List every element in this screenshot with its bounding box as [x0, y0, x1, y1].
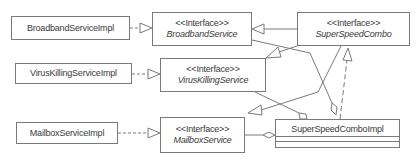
- operations-compartment: [276, 141, 399, 147]
- stereotype-label: <<Interface>>: [327, 18, 380, 29]
- interface-name: SuperSpeedCombo: [315, 29, 391, 40]
- generalization-combo-mailbox: [266, 46, 297, 58]
- realization-virus: [132, 69, 160, 79]
- generalization-combo-broadband: [252, 24, 297, 34]
- class-name: SuperSpeedComboImpl: [291, 120, 383, 136]
- realization-combo: [340, 48, 352, 119]
- stereotype-label: <<Interface>>: [175, 18, 228, 29]
- stereotype-label: <<Interface>>: [186, 64, 239, 75]
- interface-broadband-service[interactable]: <<Interface>> BroadbandService: [152, 12, 252, 46]
- class-virus-killing-service-impl[interactable]: VirusKillingServiceImpl: [15, 63, 132, 84]
- class-name: MailboxServiceImpl: [30, 128, 104, 139]
- interface-mailbox-service[interactable]: <<Interface>> MailboxService: [160, 117, 245, 153]
- interface-virus-killing-service[interactable]: <<Interface>> VirusKillingService: [160, 58, 266, 92]
- aggregation-combo-mailbox: [245, 132, 275, 138]
- class-mailbox-service-impl[interactable]: MailboxServiceImpl: [16, 122, 118, 144]
- realization-mailbox: [118, 128, 160, 138]
- interface-super-speed-combo[interactable]: <<Interface>> SuperSpeedCombo: [297, 12, 410, 46]
- stereotype-label: <<Interface>>: [176, 124, 229, 135]
- interface-name: BroadbandService: [167, 29, 238, 40]
- class-name: BroadbandServiceImpl: [27, 23, 114, 34]
- class-super-speed-combo-impl[interactable]: SuperSpeedComboImpl: [275, 119, 400, 148]
- aggregation-combo-virus: [255, 92, 307, 119]
- interface-name: MailboxService: [173, 135, 231, 146]
- class-broadband-service-impl[interactable]: BroadbandServiceImpl: [11, 16, 130, 40]
- interface-name: VirusKillingService: [178, 75, 249, 86]
- class-name: VirusKillingServiceImpl: [30, 68, 117, 79]
- uml-class-diagram: BroadbandServiceImpl VirusKillingService…: [0, 0, 417, 161]
- realization-broadband: [130, 23, 152, 33]
